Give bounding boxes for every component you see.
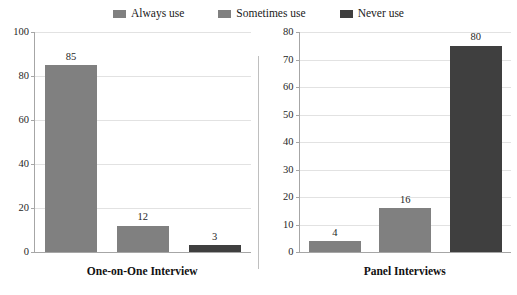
chart-figure: Always use Sometimes use Never use 02040… xyxy=(0,0,517,295)
legend-item-always-use: Always use xyxy=(113,8,184,20)
legend-swatch-icon xyxy=(218,10,231,18)
bar[interactable] xyxy=(117,226,169,252)
y-axis-label: 50 xyxy=(283,109,294,120)
bar-value-label: 12 xyxy=(137,212,148,223)
bar-slot: 4 xyxy=(300,32,371,252)
chart-panel-panel-interviews: 01020304050607080 41680 Panel Interviews xyxy=(259,26,517,295)
bar-value-label: 85 xyxy=(66,52,77,63)
y-axis-label: 30 xyxy=(283,164,294,175)
category-title: Panel Interviews xyxy=(299,266,512,278)
bar-slot: 12 xyxy=(107,32,179,252)
bar-slot: 3 xyxy=(179,32,251,252)
bar[interactable] xyxy=(450,46,502,253)
y-axis-label: 60 xyxy=(19,115,30,126)
bar[interactable] xyxy=(45,65,97,252)
bar[interactable] xyxy=(379,208,431,252)
y-axis-label: 40 xyxy=(283,137,294,148)
bar-slot: 16 xyxy=(370,32,441,252)
bar-value-label: 3 xyxy=(212,232,217,243)
bar-value-label: 16 xyxy=(400,195,411,206)
y-axis-label: 80 xyxy=(283,27,294,38)
legend-label: Always use xyxy=(131,8,184,20)
legend-item-sometimes-use: Sometimes use xyxy=(218,8,305,20)
bar-group: 85123 xyxy=(35,32,251,252)
bar-value-label: 4 xyxy=(332,228,337,239)
bar-group: 41680 xyxy=(300,32,512,252)
y-axis-label: 70 xyxy=(283,54,294,65)
charts-container: 020406080100 85123 One-on-One Interview … xyxy=(0,26,517,295)
bar[interactable] xyxy=(189,245,241,252)
legend-label: Sometimes use xyxy=(236,8,305,20)
bar-value-label: 80 xyxy=(471,32,482,43)
category-title: One-on-One Interview xyxy=(34,266,251,278)
y-axis-label: 20 xyxy=(283,192,294,203)
y-axis-label: 10 xyxy=(283,219,294,230)
bar-slot: 85 xyxy=(35,32,107,252)
chart-panel-one-on-one-interview: 020406080100 85123 One-on-One Interview xyxy=(0,26,259,295)
y-axis-label: 60 xyxy=(283,82,294,93)
plot-area: 020406080100 85123 xyxy=(34,32,251,253)
y-axis-tick xyxy=(31,252,35,253)
bar[interactable] xyxy=(309,241,361,252)
y-axis-label: 40 xyxy=(19,159,30,170)
plot-area: 01020304050607080 41680 xyxy=(299,32,512,253)
legend-label: Never use xyxy=(358,8,404,20)
legend-swatch-icon xyxy=(113,10,126,18)
y-axis-tick xyxy=(296,252,300,253)
legend-swatch-icon xyxy=(340,10,353,18)
legend-item-never-use: Never use xyxy=(340,8,404,20)
bar-slot: 80 xyxy=(441,32,512,252)
y-axis-label: 20 xyxy=(19,203,30,214)
y-axis-label: 0 xyxy=(288,247,293,258)
y-axis-label: 0 xyxy=(24,247,29,258)
chart-legend: Always use Sometimes use Never use xyxy=(0,8,517,20)
y-axis-label: 80 xyxy=(19,71,30,82)
y-axis-label: 100 xyxy=(13,27,29,38)
